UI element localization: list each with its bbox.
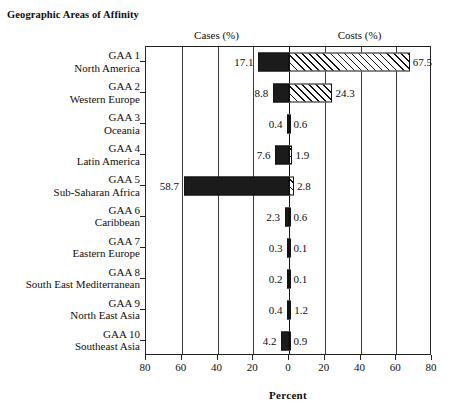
category-tick bbox=[140, 154, 146, 155]
costs-value-label: 67.5 bbox=[413, 56, 432, 68]
category-label: GAA 2Western Europe bbox=[0, 80, 140, 105]
chart-row: 17.167.5 bbox=[146, 47, 430, 78]
x-axis-tick-label: 20 bbox=[232, 361, 272, 374]
cases-bar bbox=[258, 53, 289, 72]
corner-title-line1: Geographic bbox=[7, 9, 61, 20]
category-code: GAA 1 bbox=[0, 49, 140, 62]
x-axis-tick bbox=[145, 355, 146, 360]
x-axis-tick bbox=[431, 355, 432, 360]
chart-row: 7.61.9 bbox=[146, 140, 430, 171]
x-axis-tick bbox=[324, 355, 325, 360]
cases-value-label: 8.8 bbox=[255, 87, 269, 99]
costs-bar bbox=[289, 331, 291, 350]
chart-row: 8.824.3 bbox=[146, 78, 430, 109]
category-tick bbox=[140, 92, 146, 93]
costs-value-label: 0.1 bbox=[294, 242, 308, 254]
corner-title-line2: Areas of Affinity bbox=[63, 9, 139, 20]
category-label: GAA 8South East Mediterranean bbox=[0, 265, 140, 290]
cases-value-label: 58.7 bbox=[160, 180, 179, 192]
cases-column-caption: Cases (%) bbox=[145, 29, 288, 42]
category-label: GAA 10Southeast Asia bbox=[0, 327, 140, 352]
cases-value-label: 0.4 bbox=[269, 118, 283, 130]
category-code: GAA 7 bbox=[0, 234, 140, 247]
category-label: GAA 9North East Asia bbox=[0, 296, 140, 321]
category-name: Eastern Europe bbox=[0, 247, 140, 260]
chart-figure: Geographic Areas of Affinity Cases (%) C… bbox=[0, 0, 454, 416]
x-axis-tick bbox=[181, 355, 182, 360]
costs-value-label: 0.6 bbox=[294, 118, 308, 130]
corner-title: Geographic Areas of Affinity bbox=[0, 8, 146, 21]
costs-value-label: 2.8 bbox=[297, 180, 311, 192]
x-axis-tick bbox=[217, 355, 218, 360]
costs-value-label: 0.9 bbox=[294, 335, 308, 347]
costs-bar bbox=[289, 146, 292, 165]
cases-bar bbox=[184, 177, 289, 196]
category-name: Southeast Asia bbox=[0, 340, 140, 353]
costs-bar bbox=[289, 177, 294, 196]
costs-bar bbox=[289, 207, 291, 226]
category-name: North East Asia bbox=[0, 309, 140, 322]
cases-value-label: 7.6 bbox=[257, 149, 271, 161]
category-tick bbox=[140, 185, 146, 186]
costs-value-label: 1.9 bbox=[295, 149, 309, 161]
costs-bar bbox=[289, 269, 291, 288]
cases-value-label: 0.4 bbox=[269, 304, 283, 316]
x-axis-tick-label: 0 bbox=[268, 361, 308, 374]
category-label: GAA 6Caribbean bbox=[0, 203, 140, 228]
category-name: Caribbean bbox=[0, 216, 140, 229]
category-label: GAA 4Latin America bbox=[0, 142, 140, 167]
category-tick bbox=[140, 61, 146, 62]
costs-value-label: 0.6 bbox=[294, 211, 308, 223]
costs-bar bbox=[289, 300, 291, 319]
x-axis-tick-label: 80 bbox=[411, 361, 451, 374]
category-code: GAA 8 bbox=[0, 265, 140, 278]
category-name: Oceania bbox=[0, 123, 140, 136]
x-axis-tick-label: 40 bbox=[197, 361, 237, 374]
chart-row: 4.20.9 bbox=[146, 325, 430, 356]
category-code: GAA 5 bbox=[0, 173, 140, 186]
category-tick bbox=[140, 278, 146, 279]
x-axis-tick-label: 60 bbox=[375, 361, 415, 374]
x-axis-tick bbox=[288, 355, 289, 360]
category-code: GAA 4 bbox=[0, 142, 140, 155]
x-axis-tick-label: 60 bbox=[161, 361, 201, 374]
x-axis-tick-label: 40 bbox=[340, 361, 380, 374]
chart-row: 58.72.8 bbox=[146, 171, 430, 202]
category-label: GAA 7Eastern Europe bbox=[0, 234, 140, 259]
category-code: GAA 2 bbox=[0, 80, 140, 93]
category-tick bbox=[140, 216, 146, 217]
category-name: North America bbox=[0, 61, 140, 74]
x-axis-tick bbox=[360, 355, 361, 360]
chart-row: 0.41.2 bbox=[146, 294, 430, 325]
costs-column-caption: Costs (%) bbox=[288, 29, 431, 42]
category-code: GAA 10 bbox=[0, 327, 140, 340]
category-code: GAA 3 bbox=[0, 111, 140, 124]
cases-value-label: 17.1 bbox=[234, 56, 253, 68]
category-tick bbox=[140, 340, 146, 341]
x-axis-tick bbox=[252, 355, 253, 360]
cases-value-label: 2.3 bbox=[266, 211, 280, 223]
costs-bar bbox=[289, 53, 410, 72]
category-tick bbox=[140, 247, 146, 248]
category-label: GAA 3Oceania bbox=[0, 111, 140, 136]
costs-value-label: 24.3 bbox=[335, 87, 354, 99]
category-label: GAA 5Sub-Saharan Africa bbox=[0, 173, 140, 198]
costs-bar bbox=[289, 238, 291, 257]
category-name: Western Europe bbox=[0, 92, 140, 105]
cases-value-label: 0.2 bbox=[269, 273, 283, 285]
plot-area: 17.167.58.824.30.40.67.61.958.72.82.30.6… bbox=[145, 46, 431, 355]
costs-bar bbox=[289, 84, 332, 103]
chart-row: 0.20.1 bbox=[146, 263, 430, 294]
cases-bar bbox=[281, 331, 289, 350]
category-code: GAA 6 bbox=[0, 203, 140, 216]
costs-value-label: 1.2 bbox=[294, 304, 308, 316]
category-label: GAA 1North America bbox=[0, 49, 140, 74]
x-axis-tick-label: 20 bbox=[304, 361, 344, 374]
cases-bar bbox=[275, 146, 289, 165]
chart-row: 0.30.1 bbox=[146, 232, 430, 263]
x-axis-tick bbox=[395, 355, 396, 360]
category-tick bbox=[140, 123, 146, 124]
costs-bar bbox=[289, 115, 291, 134]
cases-value-label: 4.2 bbox=[263, 335, 277, 347]
x-axis-title: Percent bbox=[145, 389, 431, 401]
